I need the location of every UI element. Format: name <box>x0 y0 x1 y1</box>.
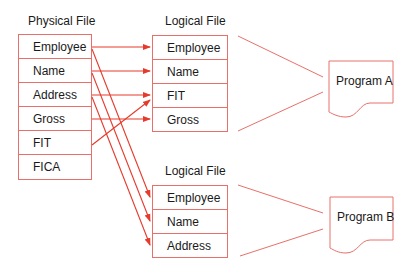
program-b-label: Program B <box>337 210 394 224</box>
diagram-connectors <box>0 0 415 272</box>
program-a-label: Program A <box>336 74 393 88</box>
line-logical-b-top-to-program-b <box>238 185 323 213</box>
program-b-document-icon <box>330 197 393 253</box>
line-logical-a-bottom-to-program-a <box>238 92 323 131</box>
program-a-document-icon <box>329 61 393 117</box>
line-logical-a-top-to-program-a <box>238 36 323 77</box>
line-logical-b-bottom-to-program-b <box>240 229 323 256</box>
